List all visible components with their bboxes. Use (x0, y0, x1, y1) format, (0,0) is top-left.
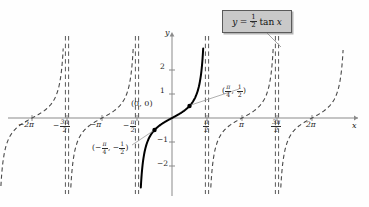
x-tick-label--3pi-2: −3π2 (53, 119, 70, 133)
x-tick-label-3pi-2: 3π2 (271, 119, 282, 133)
x-tick-label--pi-2: −π2 (123, 119, 136, 133)
equation-lhs: y (232, 17, 237, 27)
equation-equals: = (240, 17, 248, 27)
point-label-neg-pi-over-4: (−π4, −12) (92, 141, 128, 155)
x-tick-label-2pi: 2π (306, 121, 316, 129)
y-tick-label-1: 1 (160, 87, 165, 95)
x-tick-label-pi-2: π2 (203, 119, 210, 133)
x-axis-label: x (352, 122, 357, 130)
y-axis-arrow (170, 32, 175, 36)
y-tick-label--1: −1 (157, 136, 168, 144)
equation-variable: x (277, 17, 282, 27)
y-tick-label-2: 2 (160, 63, 165, 71)
x-tick-label--pi: −π (90, 121, 101, 129)
x-tick-label-pi: π (239, 121, 244, 129)
origin-point-label: (0, 0) (131, 100, 153, 108)
equation-callout-box: y = 1 2 tan x (222, 10, 292, 33)
equation-function-name: tan (259, 17, 274, 27)
data-point-marker-1 (187, 104, 191, 108)
data-point-marker-2 (152, 128, 156, 132)
y-tick-label--2: −2 (157, 160, 168, 168)
equation-coefficient: 1 2 (250, 14, 256, 30)
point-label-pi-over-4: (π4, 12) (222, 84, 246, 98)
plot-canvas (0, 0, 369, 207)
x-tick-label--2pi: −2π (18, 121, 34, 129)
x-axis-arrow (354, 116, 358, 121)
y-axis-label: y (165, 29, 170, 37)
tangent-graph-figure: −2π −3π2 −π −π2 π2 π 3π2 2π 2 1 −1 −2 y … (0, 0, 369, 207)
